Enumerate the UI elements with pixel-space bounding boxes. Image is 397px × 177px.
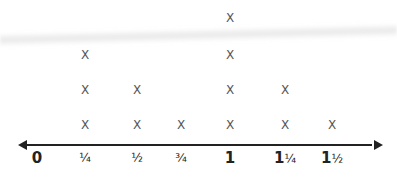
x-mark: X bbox=[130, 118, 144, 132]
x-mark: X bbox=[223, 83, 237, 97]
tick-label: ¼ bbox=[65, 149, 105, 167]
x-mark: X bbox=[174, 118, 188, 132]
tick-label: 1¼ bbox=[265, 149, 305, 168]
scan-smudge bbox=[0, 23, 397, 47]
x-mark: X bbox=[78, 48, 92, 62]
tick-whole: 1 bbox=[225, 149, 235, 167]
arrow-right-icon bbox=[374, 140, 383, 150]
line-plot: XXXXXXXXXXXXX 0¼½¾11¼1½ bbox=[0, 0, 397, 177]
tick-label: ½ bbox=[117, 149, 157, 167]
x-mark: X bbox=[130, 83, 144, 97]
x-mark: X bbox=[223, 118, 237, 132]
tick-fraction: ½ bbox=[131, 151, 143, 165]
tick-fraction: ¼ bbox=[284, 152, 296, 166]
tick-whole: 1 bbox=[274, 149, 284, 167]
tick-fraction: ¾ bbox=[175, 151, 187, 165]
tick-label: ¾ bbox=[161, 149, 201, 167]
number-line-axis bbox=[22, 144, 372, 146]
tick-whole: 1 bbox=[321, 149, 331, 167]
tick-whole: 0 bbox=[32, 149, 42, 167]
x-mark: X bbox=[223, 11, 237, 25]
tick-fraction: ¼ bbox=[79, 151, 91, 165]
x-mark: X bbox=[223, 48, 237, 62]
tick-fraction: ½ bbox=[331, 152, 343, 166]
tick-label: 1 bbox=[210, 149, 250, 168]
tick-label: 1½ bbox=[312, 149, 352, 168]
x-mark: X bbox=[278, 83, 292, 97]
x-mark: X bbox=[78, 118, 92, 132]
x-mark: X bbox=[325, 118, 339, 132]
tick-label: 0 bbox=[17, 149, 57, 168]
x-mark: X bbox=[78, 83, 92, 97]
x-mark: X bbox=[278, 118, 292, 132]
